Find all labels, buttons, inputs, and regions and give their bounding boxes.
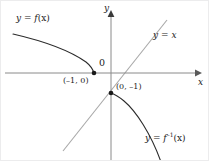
- inverse-curve-label: y = f–1(x): [145, 132, 186, 143]
- x-axis-label: x: [198, 78, 203, 87]
- point-label-neg1-0: (–1, 0): [63, 77, 89, 85]
- origin-label: 0: [99, 58, 105, 68]
- inverse-curve-label-exponent: –1: [167, 131, 174, 138]
- function-curve-label-rhs: (x): [38, 13, 50, 23]
- point-label-0-neg1: (0, –1): [116, 83, 142, 91]
- x-axis-arrow-icon: [195, 70, 202, 77]
- inverse-curve: [111, 93, 161, 161]
- function-curve-label: y = f(x): [16, 14, 50, 23]
- point-marker-neg1-0: [92, 71, 97, 76]
- inverse-curve-label-rhs: (x): [174, 133, 186, 143]
- function-curve: [13, 34, 94, 73]
- inverse-curve-label-lhs: y = f: [145, 133, 167, 143]
- identity-line-label: y = x: [153, 31, 176, 40]
- identity-line-label-var: x: [171, 30, 176, 40]
- inverse-function-figure: y x 0 y = f(x) y = x y = f–1(x) (–1, 0) …: [0, 0, 209, 161]
- point-marker-0-neg1: [109, 91, 114, 96]
- identity-line-label-lhs: y =: [153, 30, 169, 40]
- function-curve-label-lhs: y = f: [16, 13, 38, 23]
- y-axis-label: y: [104, 4, 109, 13]
